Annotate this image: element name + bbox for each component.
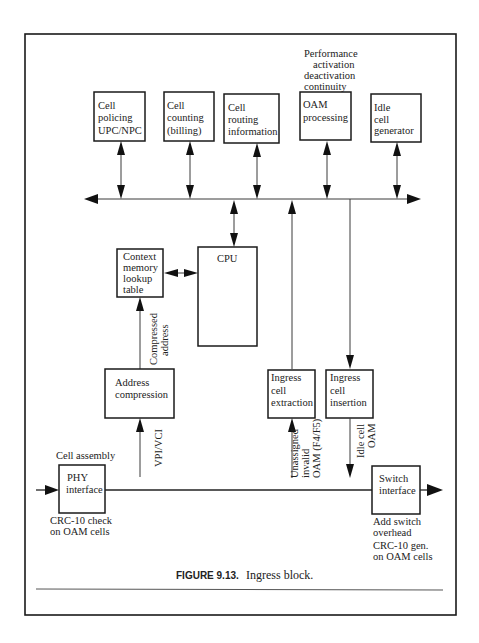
svg-text:memory: memory bbox=[123, 262, 159, 273]
svg-text:activation: activation bbox=[313, 59, 355, 70]
caption-rule bbox=[36, 589, 443, 590]
idle-cell-generator-box: Idle cell generator bbox=[371, 94, 421, 142]
compressed-address-arrow bbox=[136, 297, 144, 369]
svg-text:CPU: CPU bbox=[217, 253, 238, 264]
svg-text:policing: policing bbox=[98, 112, 133, 123]
context-memory-box: Context memory lookup table bbox=[117, 249, 163, 297]
svg-text:VPI/VCI: VPI/VCI bbox=[153, 429, 164, 467]
oam-processing-box: OAM processing bbox=[300, 92, 351, 140]
svg-text:Ingress: Ingress bbox=[271, 372, 301, 383]
svg-text:Ingress block.: Ingress block. bbox=[246, 568, 313, 582]
svg-text:Switch: Switch bbox=[379, 473, 409, 484]
cpu-box: CPU bbox=[198, 247, 257, 346]
input-arrow bbox=[36, 485, 59, 495]
cell-routing-box: Cell routing information bbox=[224, 94, 279, 143]
svg-text:compression: compression bbox=[115, 389, 169, 400]
svg-text:Ingress: Ingress bbox=[330, 372, 360, 383]
svg-text:extraction: extraction bbox=[271, 397, 314, 408]
svg-text:address: address bbox=[159, 325, 170, 357]
svg-text:PHY: PHY bbox=[67, 472, 88, 483]
svg-text:generator: generator bbox=[374, 125, 414, 136]
svg-text:cell: cell bbox=[271, 385, 286, 396]
phy-interface-box: PHY interface bbox=[59, 465, 105, 513]
svg-text:cell: cell bbox=[374, 114, 389, 125]
svg-text:FIGURE 9.13.: FIGURE 9.13. bbox=[176, 570, 239, 581]
switch-note-crc: CRC-10 gen. on OAM cells bbox=[373, 540, 433, 562]
phy-note: CRC-10 check on OAM cells bbox=[50, 515, 113, 537]
cell-counting-box: Cell counting (billing) bbox=[164, 92, 214, 141]
svg-text:OAM (F4/F5): OAM (F4/F5) bbox=[311, 418, 323, 478]
ingress-extraction-box: Ingress cell extraction bbox=[268, 370, 315, 418]
svg-text:(billing): (billing) bbox=[167, 125, 202, 137]
bus-to-insertion-arrow bbox=[346, 199, 354, 369]
bidirectional-arrow-icon bbox=[117, 141, 125, 199]
figure-caption: FIGURE 9.13. Ingress block. bbox=[176, 568, 313, 582]
svg-text:CRC-10 gen.: CRC-10 gen. bbox=[373, 540, 428, 551]
svg-text:OAM: OAM bbox=[303, 99, 328, 110]
svg-text:processing: processing bbox=[303, 112, 349, 123]
switch-interface-box: Switch interface bbox=[372, 466, 420, 514]
address-compression-box: Address compression bbox=[105, 369, 174, 418]
svg-text:on OAM cells: on OAM cells bbox=[50, 526, 110, 537]
svg-text:Idle cell: Idle cell bbox=[355, 424, 366, 458]
svg-text:Idle: Idle bbox=[374, 102, 391, 113]
svg-text:Context: Context bbox=[123, 251, 156, 262]
bidirectional-arrow-icon bbox=[164, 269, 198, 277]
bus-line bbox=[84, 194, 421, 204]
vpi-vci-arrow bbox=[136, 418, 144, 477]
ingress-block-diagram: Performance activation deactivation cont… bbox=[0, 0, 479, 643]
output-arrow bbox=[420, 484, 443, 496]
svg-text:overhead: overhead bbox=[373, 527, 412, 538]
compressed-address-label: Compressed address bbox=[148, 312, 170, 365]
bidirectional-arrow-icon bbox=[393, 142, 401, 199]
bidirectional-arrow-icon bbox=[323, 141, 331, 199]
bidirectional-arrow-icon bbox=[186, 141, 194, 199]
ingress-insertion-box: Ingress cell insertion bbox=[326, 370, 373, 418]
svg-text:on OAM cells: on OAM cells bbox=[373, 551, 433, 562]
svg-text:Address: Address bbox=[115, 377, 149, 388]
bidirectional-arrow-icon bbox=[253, 143, 261, 199]
svg-text:Compressed: Compressed bbox=[148, 312, 159, 365]
svg-text:continuity: continuity bbox=[304, 81, 347, 92]
svg-text:UPC/NPC: UPC/NPC bbox=[98, 125, 142, 136]
svg-text:Add switch: Add switch bbox=[373, 516, 422, 527]
svg-text:cell: cell bbox=[330, 385, 345, 396]
svg-text:information: information bbox=[228, 126, 278, 137]
idle-cell-oam-arrow bbox=[346, 418, 354, 478]
svg-text:OAM: OAM bbox=[366, 423, 377, 448]
svg-text:counting: counting bbox=[167, 112, 204, 123]
svg-text:routing: routing bbox=[228, 114, 259, 125]
idle-oam-label: Idle cell OAM bbox=[355, 423, 377, 458]
svg-text:invalid: invalid bbox=[300, 448, 311, 478]
svg-text:deactivation: deactivation bbox=[304, 70, 356, 81]
cell-assembly-label: Cell assembly bbox=[56, 450, 116, 461]
vpi-vci-label: VPI/VCI bbox=[153, 429, 164, 467]
svg-text:interface: interface bbox=[66, 484, 103, 495]
switch-note-overhead: Add switch overhead bbox=[373, 516, 422, 538]
cell-policing-box: Cell policing UPC/NPC bbox=[94, 92, 145, 141]
svg-text:insertion: insertion bbox=[330, 397, 367, 408]
svg-text:table: table bbox=[123, 284, 144, 295]
performance-note: Performance activation deactivation cont… bbox=[304, 48, 358, 92]
svg-text:lookup: lookup bbox=[123, 273, 152, 284]
svg-text:interface: interface bbox=[379, 485, 416, 496]
svg-text:Cell: Cell bbox=[98, 100, 116, 111]
svg-text:Cell: Cell bbox=[167, 100, 185, 111]
bidirectional-arrow-icon bbox=[230, 200, 238, 247]
extraction-to-bus-arrow bbox=[288, 200, 296, 369]
svg-text:CRC-10 check: CRC-10 check bbox=[50, 515, 113, 526]
svg-text:Cell: Cell bbox=[228, 102, 246, 113]
svg-text:Unassigned: Unassigned bbox=[289, 428, 300, 478]
svg-text:Performance: Performance bbox=[304, 48, 358, 59]
